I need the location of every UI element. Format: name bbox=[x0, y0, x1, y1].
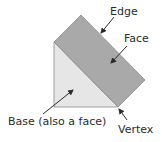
edge-arrow bbox=[101, 17, 114, 33]
triangular-prism-diagram: Edge Face Base (also a face) Vertex bbox=[0, 0, 162, 142]
face-label: Face bbox=[124, 32, 149, 45]
base-label: Base (also a face) bbox=[8, 115, 106, 128]
edge-label: Edge bbox=[110, 5, 138, 18]
vertex-arrow bbox=[119, 109, 127, 120]
vertex-label: Vertex bbox=[118, 123, 154, 136]
